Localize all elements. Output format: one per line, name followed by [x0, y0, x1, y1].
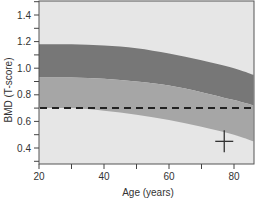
- x-tick-label: 20: [33, 171, 45, 182]
- x-tick-label: 60: [163, 171, 175, 182]
- y-tick-label: 1.0: [17, 63, 31, 74]
- bmd-age-chart: 0.40.60.81.01.21.420406080 Age (years) B…: [0, 0, 255, 201]
- x-tick-label: 40: [98, 171, 110, 182]
- y-tick-label: 0.4: [17, 143, 31, 154]
- y-tick-label: 0.8: [17, 89, 31, 100]
- plot-area: [39, 1, 254, 164]
- x-tick-label: 80: [228, 171, 240, 182]
- y-axis-title: BMD (T-score): [3, 58, 14, 123]
- x-axis-title: Age (years): [122, 187, 174, 198]
- y-tick-label: 1.4: [17, 10, 31, 21]
- y-tick-label: 1.2: [17, 36, 31, 47]
- y-tick-label: 0.6: [17, 116, 31, 127]
